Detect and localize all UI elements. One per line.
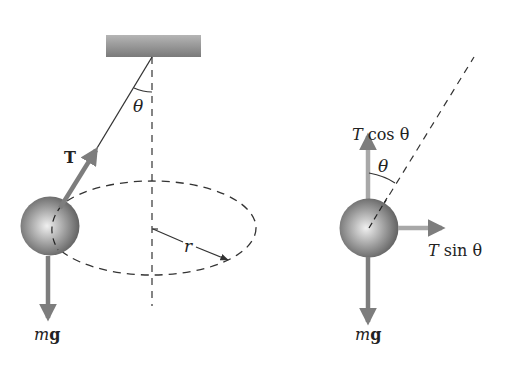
weight-label-m: m bbox=[34, 325, 49, 344]
conical-pendulum-diagram: θ T r mg T cos θ θ bbox=[0, 0, 516, 375]
angle-label-right: θ bbox=[378, 156, 388, 176]
weight-label-right: mg bbox=[355, 325, 381, 344]
weight-label-g: g bbox=[49, 325, 60, 344]
bob-ball bbox=[21, 197, 80, 256]
ceiling-support bbox=[106, 35, 201, 57]
radius-arrow-b bbox=[196, 247, 228, 260]
weight-label-right-m: m bbox=[355, 325, 370, 344]
horizontal-label-T: T bbox=[428, 241, 440, 260]
weight-label: mg bbox=[34, 325, 60, 344]
angle-label: θ bbox=[133, 96, 143, 116]
tension-label: T bbox=[64, 148, 76, 167]
horizontal-label-fn: sin θ bbox=[444, 241, 482, 260]
radius-arrow-a bbox=[153, 229, 183, 242]
vertical-label-T: T bbox=[352, 125, 364, 144]
horizontal-component-label: T sin θ bbox=[428, 241, 482, 260]
radius-label: r bbox=[184, 236, 193, 256]
weight-label-right-g: g bbox=[370, 325, 381, 344]
vertical-label-fn: cos θ bbox=[368, 125, 410, 144]
angle-arc bbox=[134, 88, 152, 92]
right-figure: T cos θ θ T sin θ mg bbox=[340, 57, 483, 344]
vertical-component-label: T cos θ bbox=[352, 125, 409, 144]
left-figure: θ T r mg bbox=[21, 35, 257, 344]
